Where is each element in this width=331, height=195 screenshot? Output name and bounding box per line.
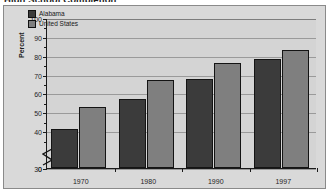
y-axis-tick	[43, 38, 47, 39]
y-axis-tick-label: 80	[20, 53, 42, 60]
bar-united-states-1990	[214, 63, 241, 168]
chart-legend: Alabama United States	[26, 8, 81, 30]
x-axis-tick	[250, 168, 251, 172]
y-axis-tick-label: 70	[20, 72, 42, 79]
y-axis-tick	[43, 169, 47, 170]
x-axis-tick-label: 1997	[263, 178, 303, 185]
gridline	[47, 38, 316, 39]
x-axis-tick-label: 1990	[196, 178, 236, 185]
y-axis-tick	[43, 113, 47, 114]
gridline	[47, 19, 316, 20]
legend-label-united-states: United States	[39, 20, 78, 27]
plot-area: 030405060708090100 1970198019901997	[46, 19, 316, 169]
y-axis-tick-label: 30	[20, 166, 42, 173]
bar-united-states-1980	[147, 80, 174, 168]
y-axis-minor-tick	[44, 47, 47, 48]
legend-label-alabama: Alabama	[39, 10, 65, 17]
y-axis-minor-tick	[44, 142, 47, 143]
bar-alabama-1970	[51, 129, 78, 168]
y-axis-tick	[43, 57, 47, 58]
y-axis-tick	[43, 94, 47, 95]
y-axis-tick-label: 50	[20, 110, 42, 117]
x-axis-tick	[317, 168, 318, 172]
x-axis-tick-label: 1970	[61, 178, 101, 185]
bar-alabama-1990	[186, 79, 213, 168]
y-axis-minor-tick	[44, 123, 47, 124]
chart-page: High School Completion Percent Alabama U…	[0, 0, 331, 195]
y-axis-minor-tick	[44, 85, 47, 86]
x-axis-tick	[115, 168, 116, 172]
y-axis-tick	[43, 76, 47, 77]
bar-united-states-1997	[282, 50, 309, 168]
y-axis-minor-tick	[44, 104, 47, 105]
page-title: High School Completion	[4, 0, 117, 2]
bar-alabama-1980	[119, 99, 146, 168]
x-axis-tick	[182, 168, 183, 172]
bar-alabama-1997	[254, 59, 281, 168]
legend-swatch-united-states	[28, 20, 36, 28]
legend-swatch-alabama	[28, 10, 36, 18]
gridline	[47, 57, 316, 58]
legend-item: Alabama	[28, 9, 78, 18]
x-axis-tick-label: 1980	[128, 178, 168, 185]
bar-united-states-1970	[79, 107, 106, 168]
legend-item: United States	[28, 19, 78, 28]
y-axis-minor-tick	[44, 66, 47, 67]
y-axis-tick	[43, 132, 47, 133]
y-axis-tick-label: 90	[20, 34, 42, 41]
y-axis-tick-label: 60	[20, 91, 42, 98]
figure-frame: Percent Alabama United States 0304050607…	[3, 5, 326, 189]
y-axis-tick-label: 40	[20, 129, 42, 136]
